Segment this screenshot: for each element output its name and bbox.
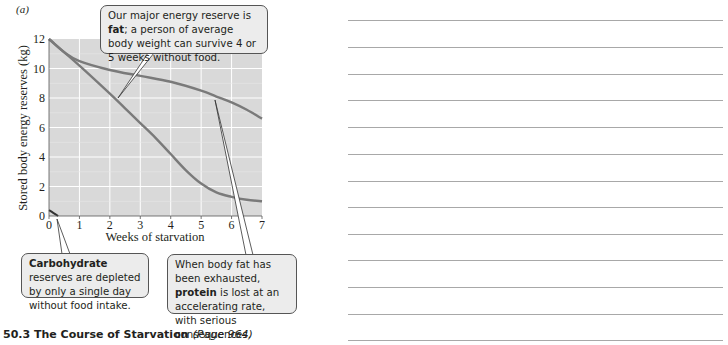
carbohydrate-callout: Carbohydrate reserves are depleted by on… (21, 253, 149, 298)
y-tick-label: 2 (39, 180, 45, 194)
y-tick-label: 8 (39, 91, 45, 105)
note-line (348, 100, 723, 101)
callout-bold-term: protein (175, 287, 217, 298)
x-tick-label: 6 (229, 218, 235, 232)
x-axis-label: Weeks of starvation (106, 230, 206, 244)
x-tick-label: 0 (46, 218, 52, 232)
figure-caption: 50.3 The Course of Starvation(Page 964) (3, 328, 253, 341)
callout-text: When body fat has been exhausted, (175, 259, 271, 284)
note-line (348, 287, 723, 288)
callout-bold-term: Carbohydrate (29, 258, 108, 269)
note-line (348, 207, 723, 208)
note-line (348, 20, 723, 21)
note-line (348, 260, 723, 261)
x-tick-label: 7 (259, 218, 265, 232)
protein-callout: When body fat has been exhausted, protei… (167, 254, 297, 314)
caption-title: 50.3 The Course of Starvation (3, 328, 189, 341)
callout-bold-term: fat (108, 24, 124, 35)
callout-pointer (57, 219, 70, 254)
note-line (348, 74, 723, 75)
y-tick-label: 12 (33, 32, 45, 46)
callout-text: reserves are depleted by only a single d… (29, 272, 141, 311)
fat-callout: Our major energy reserve is fat; a perso… (100, 5, 268, 54)
note-line (348, 181, 723, 182)
note-line (348, 234, 723, 235)
y-tick-label: 0 (39, 209, 45, 223)
note-line (348, 154, 723, 155)
caption-page-ref: (Page 964) (193, 328, 253, 341)
note-line (348, 314, 723, 315)
y-tick-label: 4 (39, 150, 45, 164)
note-lines-area (348, 0, 723, 345)
x-tick-label: 1 (76, 218, 82, 232)
y-tick-label: 10 (33, 62, 45, 76)
callout-text: Our major energy reserve is (108, 10, 251, 21)
note-line (348, 340, 723, 341)
y-tick-label: 6 (39, 121, 45, 135)
note-line (348, 47, 723, 48)
y-axis-label: Stored body energy reserves (kg) (16, 45, 30, 211)
note-line (348, 127, 723, 128)
